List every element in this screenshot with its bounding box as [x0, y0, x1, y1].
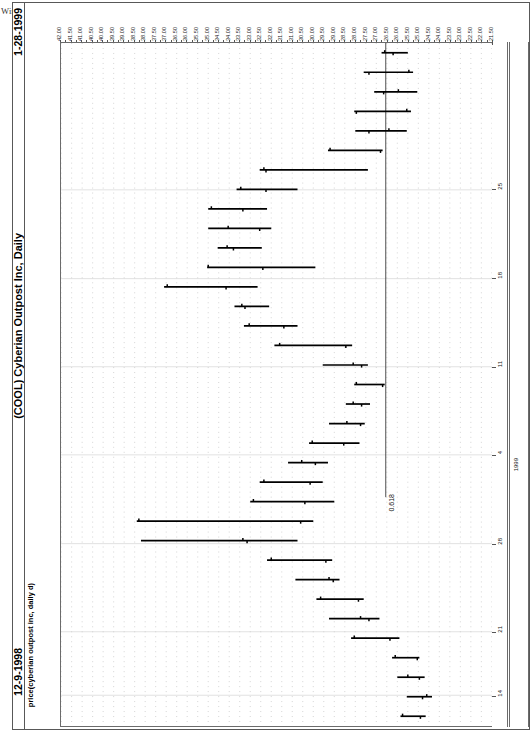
date-tick-label: 18 [497, 272, 503, 280]
fib-level-label: 0.618 [388, 494, 395, 513]
page-title: (COOL) Cyberian Outpost Inc, Daily [13, 233, 24, 421]
date-tick [492, 189, 496, 190]
date-tick [492, 696, 496, 697]
date-tick [492, 544, 496, 545]
date-tick [492, 367, 496, 368]
date-tick-label: 25 [497, 183, 503, 191]
chart-page: Window on Wall Street © 1999 1-28-1999 1… [0, 0, 532, 733]
year-label: 1999 [513, 458, 519, 472]
end-date-label: 1-28-1999 [13, 8, 24, 58]
date-tick-label: 21 [497, 626, 503, 634]
price-axis-labels: 42.0041.5041.0040.5040.0039.5039.0038.50… [60, 8, 492, 42]
start-date-label: 12-9-1998 [13, 648, 24, 698]
year-axis: 1999 [509, 42, 529, 727]
date-tick [492, 278, 496, 279]
date-tick [492, 632, 496, 633]
date-tick-label: 28 [497, 538, 503, 546]
series-subtitle: price(cyberian outpost inc, daily d) [27, 583, 35, 709]
date-tick [492, 455, 496, 456]
ohlc-bars [61, 43, 492, 726]
plot-area [60, 42, 492, 727]
date-tick-label: 11 [497, 361, 503, 368]
date-tick-label: 4 [497, 449, 503, 455]
title-separator [24, 2, 25, 730]
date-axis: 2518114282114 [492, 42, 508, 727]
date-tick-label: 14 [497, 690, 503, 698]
